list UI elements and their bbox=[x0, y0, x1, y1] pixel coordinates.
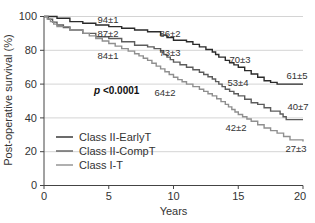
x-tick-15: 15 bbox=[232, 190, 244, 202]
y-tick-0: 0 bbox=[31, 179, 37, 191]
classI-label-5y: 84±1 bbox=[97, 50, 118, 61]
x-tick-20: 20 bbox=[294, 190, 306, 202]
y-tick-100: 100 bbox=[19, 10, 37, 22]
x-tick-labels: 0 5 10 15 20 bbox=[41, 190, 306, 202]
earlyT-label-10y: 86±2 bbox=[159, 28, 180, 39]
x-axis-title: Years bbox=[160, 205, 188, 217]
y-tick-labels: 100 80 60 40 20 0 bbox=[19, 10, 37, 191]
x-tick-5: 5 bbox=[106, 190, 112, 202]
compT-label-15y: 53±4 bbox=[227, 77, 248, 88]
compT-label-5y: 87±2 bbox=[97, 28, 118, 39]
earlyT-label-20y: 61±5 bbox=[286, 70, 307, 81]
compT-label-10y: 73±3 bbox=[159, 47, 180, 58]
legend-label: Class I-T bbox=[79, 159, 123, 171]
legend-item-comp-t: Class II-CompT bbox=[56, 145, 156, 157]
y-axis-title: Post-operative survival (%) bbox=[2, 34, 14, 165]
classI-label-20y: 27±3 bbox=[285, 143, 306, 154]
classI-label-10y: 64±2 bbox=[154, 87, 175, 98]
y-tick-60: 60 bbox=[25, 78, 37, 90]
legend: Class II-EarlyT Class II-CompT Class I-T bbox=[56, 131, 156, 171]
x-tick-0: 0 bbox=[41, 190, 47, 202]
p-value-annotation: p <0.0001 bbox=[93, 85, 140, 96]
earlyT-label-15y: 70±3 bbox=[229, 54, 250, 65]
legend-label: Class II-EarlyT bbox=[79, 131, 151, 143]
y-axis bbox=[40, 16, 44, 186]
y-tick-40: 40 bbox=[25, 112, 37, 124]
legend-item-early-t: Class II-EarlyT bbox=[56, 131, 151, 143]
classI-label-15y: 42±2 bbox=[225, 122, 246, 133]
compT-label-20y: 40±7 bbox=[287, 101, 308, 112]
y-tick-20: 20 bbox=[25, 145, 37, 157]
survival-chart: 100 80 60 40 20 0 0 5 10 15 20 Years Pos… bbox=[0, 0, 315, 223]
x-axis bbox=[44, 186, 303, 190]
legend-label: Class II-CompT bbox=[79, 145, 156, 157]
earlyT-label-5y: 94±1 bbox=[97, 14, 118, 25]
x-tick-10: 10 bbox=[167, 190, 179, 202]
legend-item-class-i-t: Class I-T bbox=[56, 159, 123, 171]
y-tick-80: 80 bbox=[25, 44, 37, 56]
